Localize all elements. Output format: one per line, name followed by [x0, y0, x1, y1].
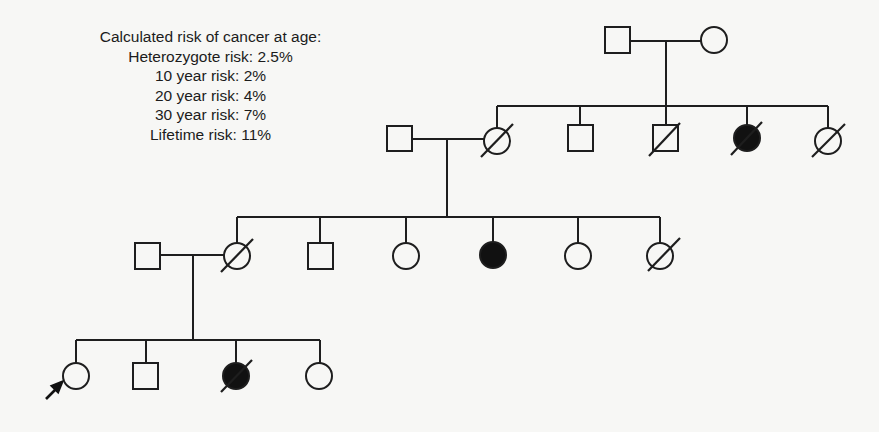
female-affected-symbol: [480, 242, 506, 268]
generation-1: [605, 27, 727, 106]
female-deceased-symbol: [647, 243, 673, 269]
female-unaffected-symbol: [393, 243, 419, 269]
pedigree-chart: [0, 0, 879, 432]
male-unaffected-symbol: [135, 243, 160, 269]
male-unaffected-symbol: [605, 27, 630, 53]
female-unaffected-symbol: [306, 363, 332, 389]
proband-female-symbol: [63, 363, 89, 389]
male-unaffected-symbol: [133, 363, 158, 389]
generation-3: [135, 217, 680, 340]
female-unaffected-symbol: [701, 27, 727, 53]
generation-2: [387, 106, 845, 217]
male-unaffected-symbol: [308, 243, 333, 269]
female-unaffected-symbol: [565, 243, 591, 269]
pedigree-figure: Calculated risk of cancer at age: Hetero…: [0, 0, 879, 432]
male-unaffected-symbol: [387, 126, 412, 151]
proband-arrow-icon: [46, 382, 62, 399]
generation-4: [46, 340, 332, 399]
male-unaffected-symbol: [568, 125, 593, 151]
